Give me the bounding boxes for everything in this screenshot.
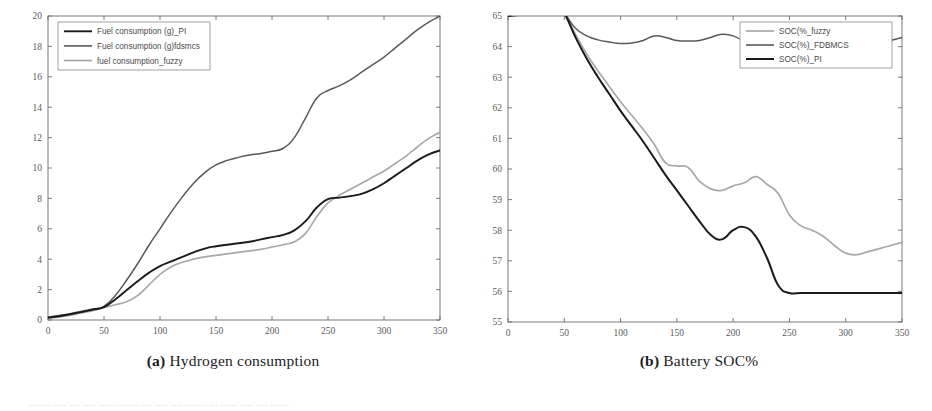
legend-label-3: SOC(%)_PI	[779, 55, 822, 64]
y-tick-label: 4	[37, 255, 42, 265]
y-tick-label: 60	[493, 164, 503, 174]
y-tick-label: 58	[493, 226, 503, 236]
chart-b-plot-area: 0501001502002503003505556575859606162636…	[466, 0, 932, 350]
caption-a-text: Hydrogen consumption	[169, 352, 319, 369]
chart-b-svg: 0501001502002503003505556575859606162636…	[466, 0, 932, 350]
x-tick-label: 350	[433, 326, 448, 336]
y-tick-label: 20	[33, 11, 43, 21]
x-tick-label: 200	[265, 326, 280, 336]
y-tick-label: 62	[493, 103, 503, 113]
x-tick-label: 150	[670, 328, 685, 338]
caption-a: (a) Hydrogen consumption	[0, 352, 466, 370]
series-line-1	[48, 151, 440, 318]
x-tick-label: 250	[782, 328, 797, 338]
y-tick-label: 8	[37, 194, 42, 204]
x-tick-label: 300	[839, 328, 854, 338]
y-tick-label: 14	[33, 103, 43, 113]
y-tick-label: 0	[37, 315, 42, 325]
y-tick-label: 65	[493, 11, 503, 21]
chart-a-svg: 05010015020025030035002468101214161820Fu…	[0, 0, 466, 350]
caption-a-label: (a)	[147, 352, 166, 369]
y-tick-label: 6	[37, 224, 42, 234]
series-line-3	[48, 132, 440, 318]
x-tick-label: 200	[726, 328, 741, 338]
x-tick-label: 50	[99, 326, 109, 336]
y-tick-label: 55	[493, 317, 503, 327]
legend-label-2: Fuel consumption (g)fdsmcs	[97, 42, 200, 51]
y-tick-label: 10	[33, 163, 43, 173]
x-tick-label: 0	[506, 328, 511, 338]
figure-container: 05010015020025030035002468101214161820Fu…	[0, 0, 932, 411]
x-tick-label: 250	[321, 326, 336, 336]
x-tick-label: 350	[895, 328, 910, 338]
legend-label-3: fuel consumption_fuzzy	[97, 57, 183, 66]
x-tick-label: 300	[377, 326, 392, 336]
footer-partial-text: ........ ..... .... ..... ..... ........…	[28, 396, 904, 406]
legend-label-2: SOC(%)_FDBMCS	[779, 41, 849, 50]
y-tick-label: 16	[33, 72, 43, 82]
x-tick-label: 50	[560, 328, 570, 338]
legend-label-1: Fuel consumption (g)_PI	[97, 27, 186, 36]
caption-b-label: (b)	[640, 352, 660, 369]
y-tick-label: 63	[493, 73, 503, 83]
y-tick-label: 2	[37, 285, 42, 295]
x-tick-label: 0	[46, 326, 51, 336]
x-tick-label: 150	[209, 326, 224, 336]
legend-label-1: SOC(%_fuzzy	[779, 27, 831, 36]
y-tick-label: 18	[33, 42, 43, 52]
chart-legend[interactable]: Fuel consumption (g)_PIFuel consumption …	[58, 22, 210, 70]
chart-a-plot-area: 05010015020025030035002468101214161820Fu…	[0, 0, 466, 350]
y-tick-label: 61	[493, 134, 503, 144]
chart-legend[interactable]: SOC(%_fuzzySOC(%)_FDBMCSSOC(%)_PI	[740, 22, 892, 68]
caption-b: (b) Battery SOC%	[466, 352, 932, 370]
x-tick-label: 100	[613, 328, 628, 338]
y-tick-label: 56	[493, 287, 503, 297]
caption-b-text: Battery SOC%	[663, 352, 758, 369]
x-tick-label: 100	[153, 326, 168, 336]
y-tick-label: 64	[493, 42, 503, 52]
y-tick-label: 12	[33, 133, 43, 143]
y-tick-label: 57	[493, 256, 503, 266]
y-tick-label: 59	[493, 195, 503, 205]
